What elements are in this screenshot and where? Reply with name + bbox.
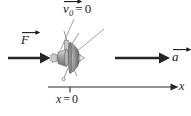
initial-velocity-symbol: v xyxy=(63,2,69,15)
acceleration-label: a xyxy=(172,50,179,63)
initial-velocity-subscript: 0 xyxy=(69,8,73,18)
force-vector xyxy=(8,53,51,64)
acceleration-symbol: a xyxy=(172,50,179,63)
origin-symbol: x xyxy=(56,92,61,106)
x-axis-label: x xyxy=(179,80,184,92)
force-symbol: F xyxy=(21,33,29,46)
initial-velocity-value: 0 xyxy=(85,1,92,16)
initial-velocity-label: v 0=0 xyxy=(63,2,91,17)
vectors-layer xyxy=(0,0,191,116)
force-label: F xyxy=(21,33,29,46)
origin-value: 0 xyxy=(72,92,78,106)
origin-equals: = xyxy=(63,92,70,106)
origin-label: x=0 xyxy=(56,93,78,105)
acceleration-vector xyxy=(115,53,170,64)
physics-figure: v 0=0 F a x x=0 xyxy=(0,0,191,116)
initial-velocity-equals: = xyxy=(75,1,82,16)
